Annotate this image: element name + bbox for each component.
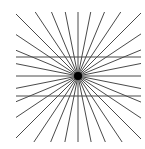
radial-lines [0, 0, 145, 149]
hering-illusion-figure [0, 0, 145, 149]
center-dot [74, 72, 82, 80]
